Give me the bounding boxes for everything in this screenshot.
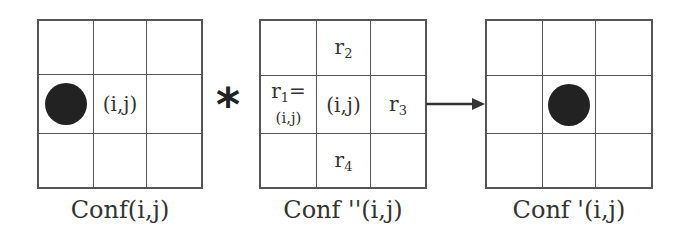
convolution-operator: * xyxy=(216,82,240,128)
r1-equals: = xyxy=(289,79,306,103)
cell xyxy=(596,21,651,76)
occupied-dot-icon xyxy=(548,84,590,126)
cell-with-dot xyxy=(39,75,94,134)
r4-subscript: 4 xyxy=(344,159,352,174)
r4-label: r xyxy=(335,148,345,172)
cell xyxy=(39,134,94,187)
cell xyxy=(487,76,543,134)
center-label: (i,j) xyxy=(103,92,138,116)
cell-with-dot xyxy=(543,76,596,134)
r2-subscript: 2 xyxy=(344,46,352,61)
occupied-dot-icon xyxy=(45,83,87,125)
cell xyxy=(147,134,201,187)
cell xyxy=(94,134,147,187)
r1-subscript: 1 xyxy=(281,90,289,105)
cell xyxy=(147,75,201,134)
r3-label: r xyxy=(389,92,399,116)
cell xyxy=(596,76,651,134)
cell xyxy=(371,21,425,76)
cell-center: (i,j) xyxy=(94,75,147,134)
r3-subscript: 3 xyxy=(399,103,407,118)
cell xyxy=(543,21,596,76)
caption-conf: Conf(i,j) xyxy=(37,196,203,224)
cell xyxy=(487,21,543,76)
r2-label: r xyxy=(335,35,345,59)
arrow-right-icon xyxy=(426,96,486,112)
cell-center: (i,j) xyxy=(317,76,371,134)
cell-r2: r2 xyxy=(317,21,371,76)
cell-r4: r4 xyxy=(317,134,371,187)
r1-label: r xyxy=(271,79,281,103)
cell xyxy=(487,134,543,187)
cell xyxy=(261,21,317,76)
cell xyxy=(39,21,94,75)
grid-conf: (i,j) xyxy=(37,19,203,189)
r1-value: (i,j) xyxy=(276,108,302,128)
cell xyxy=(147,21,201,75)
cell xyxy=(261,134,317,187)
cell-r3: r3 xyxy=(371,76,425,134)
grid-conf-prime xyxy=(485,19,653,189)
cell xyxy=(596,134,651,187)
caption-conf-double-prime: Conf ''(i,j) xyxy=(259,196,427,224)
grid-conf-double-prime: r2 r1= (i,j) (i,j) r3 r4 xyxy=(259,19,427,189)
center-label: (i,j) xyxy=(326,93,361,117)
cell xyxy=(543,134,596,187)
cell xyxy=(94,21,147,75)
cell xyxy=(371,134,425,187)
caption-conf-prime: Conf '(i,j) xyxy=(485,196,653,224)
cell-r1: r1= (i,j) xyxy=(261,76,317,134)
